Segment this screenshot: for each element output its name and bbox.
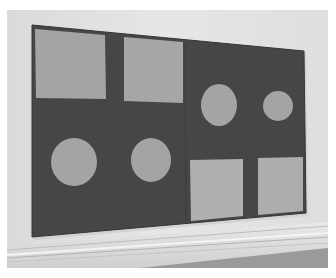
painting [32, 25, 306, 237]
shape-square-top-left [35, 29, 106, 99]
photo-canvas [0, 0, 336, 278]
shape-circle-bottom-left [51, 138, 97, 186]
shape-circle-bottom-right [131, 138, 171, 182]
shape-square-right-bottom-left [190, 159, 243, 221]
photograph [0, 0, 336, 278]
shape-circle-right-top-left [201, 84, 237, 126]
shape-circle-right-top-right [263, 91, 293, 121]
shape-square-top-right [124, 37, 183, 103]
shape-square-right-bottom-right [258, 157, 303, 215]
